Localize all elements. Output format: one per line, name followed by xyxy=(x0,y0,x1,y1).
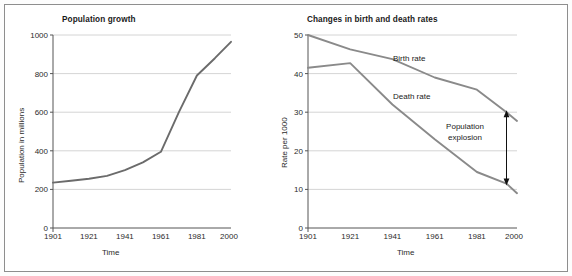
x-tick-label: 1981 xyxy=(468,232,486,241)
screenshot-root: Population growth Population in millions… xyxy=(0,0,572,276)
x-tick-label: 1941 xyxy=(116,232,134,241)
chart-birth-death-rates: Changes in birth and death rates Rate pe… xyxy=(269,5,569,273)
x-tick-label: 1901 xyxy=(299,232,317,241)
x-axis-title-population: Time xyxy=(102,248,119,257)
y-axis-title-rate: Rate per 1000 xyxy=(280,117,289,168)
chart-title-population-growth: Population growth xyxy=(62,15,136,24)
y-tick-label: 400 xyxy=(17,146,48,155)
annotation-population-explosion: Population explosion xyxy=(432,122,498,143)
series-line-birth-rate xyxy=(308,35,517,121)
y-tick-label: 10 xyxy=(277,185,303,194)
population-growth-svg xyxy=(53,35,231,228)
series-label-birth-rate: Birth rate xyxy=(393,54,425,63)
gridlines xyxy=(53,35,231,189)
figure-frame: Population growth Population in millions… xyxy=(4,4,568,272)
x-tick-label: 2000 xyxy=(220,232,238,241)
x-tick-label: 1901 xyxy=(44,232,62,241)
series-label-death-rate: Death rate xyxy=(393,92,430,101)
axis-lines xyxy=(53,35,231,228)
x-axis-title-rates: Time xyxy=(397,248,414,257)
x-tick-label: 1921 xyxy=(80,232,98,241)
x-tick-label: 1961 xyxy=(426,232,444,241)
y-tick-label: 40 xyxy=(277,69,303,78)
x-tick-label: 1961 xyxy=(152,232,170,241)
annotation-line-1: Population xyxy=(432,122,498,133)
y-tick-label: 1000 xyxy=(17,31,48,40)
y-tick-label: 600 xyxy=(17,108,48,117)
chart-title-birth-death: Changes in birth and death rates xyxy=(307,15,438,24)
y-tick-label: 200 xyxy=(17,185,48,194)
y-tick-label: 30 xyxy=(277,108,303,117)
y-tick-label: 50 xyxy=(277,31,303,40)
x-tick-label: 1921 xyxy=(341,232,359,241)
x-tick-label: 2000 xyxy=(505,232,523,241)
x-tick-label: 1941 xyxy=(383,232,401,241)
chart-population-growth: Population growth Population in millions… xyxy=(5,5,269,273)
y-tick-label: 20 xyxy=(277,146,303,155)
plot-area-population xyxy=(53,35,231,228)
y-tick-label: 800 xyxy=(17,69,48,78)
x-tick-label: 1981 xyxy=(188,232,206,241)
population-explosion-arrow xyxy=(504,110,510,185)
annotation-line-2: explosion xyxy=(432,133,498,144)
